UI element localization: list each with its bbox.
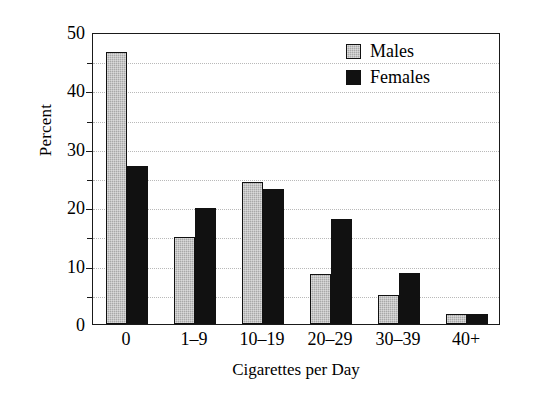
bar-females-40+ [467, 314, 488, 324]
y-axis-tick-label: 10 [45, 258, 85, 276]
y-axis-minor-tick [87, 297, 93, 298]
legend-swatch-males [346, 44, 361, 59]
y-axis-tick [86, 268, 93, 269]
y-axis-tick-label: 30 [45, 141, 85, 159]
legend-item-males: Males [346, 38, 486, 64]
gridline [93, 92, 499, 93]
x-axis-tick-label: 40+ [452, 330, 480, 348]
bar-chart-figure: Percent 01020304050 01–910–1920–2930–394… [0, 0, 534, 403]
legend-label: Males [370, 42, 414, 60]
legend: MalesFemales [346, 38, 486, 90]
bar-females-1–9 [195, 208, 216, 324]
y-axis-minor-tick [87, 238, 93, 239]
bar-males-30–39 [378, 295, 399, 324]
bar-males-0 [106, 52, 127, 324]
bar-males-10–19 [242, 182, 263, 324]
gridline [93, 151, 499, 152]
x-axis-tick-label: 1–9 [181, 330, 208, 348]
gridline [93, 180, 499, 181]
bar-group [174, 34, 216, 324]
y-axis-minor-tick [87, 122, 93, 123]
bar-females-30–39 [399, 273, 420, 324]
gridline [93, 238, 499, 239]
gridline [93, 268, 499, 269]
gridline [93, 122, 499, 123]
x-axis-tick-label: 0 [122, 330, 131, 348]
bar-males-40+ [446, 314, 467, 325]
bar-females-20–29 [331, 219, 352, 324]
legend-swatch-females [346, 70, 361, 85]
y-axis-tick-label: 40 [45, 82, 85, 100]
bar-group [106, 34, 148, 324]
bar-females-0 [127, 166, 148, 324]
bar-females-10–19 [263, 189, 284, 324]
x-axis-tick-label: 20–29 [308, 330, 353, 348]
x-axis-tick-labels: 01–910–1920–2930–3940+ [92, 330, 500, 356]
x-axis-tick-label: 30–39 [376, 330, 421, 348]
y-axis-tick [86, 151, 93, 152]
legend-label: Females [370, 68, 430, 86]
legend-item-females: Females [346, 64, 486, 90]
y-axis-tick [86, 92, 93, 93]
bar-males-20–29 [310, 274, 331, 324]
gridline [93, 297, 499, 298]
bar-group [242, 34, 284, 324]
gridline [93, 209, 499, 210]
x-axis-tick-label: 10–19 [240, 330, 285, 348]
y-axis-minor-tick [87, 63, 93, 64]
y-axis-minor-tick [87, 180, 93, 181]
x-axis-title: Cigarettes per Day [92, 360, 500, 380]
bar-males-1–9 [174, 237, 195, 324]
y-axis-tick [86, 209, 93, 210]
y-axis-tick-labels: 01020304050 [40, 33, 85, 325]
y-axis-tick-label: 50 [45, 24, 85, 42]
y-axis-tick-label: 20 [45, 199, 85, 217]
y-axis-tick-label: 0 [45, 316, 85, 334]
